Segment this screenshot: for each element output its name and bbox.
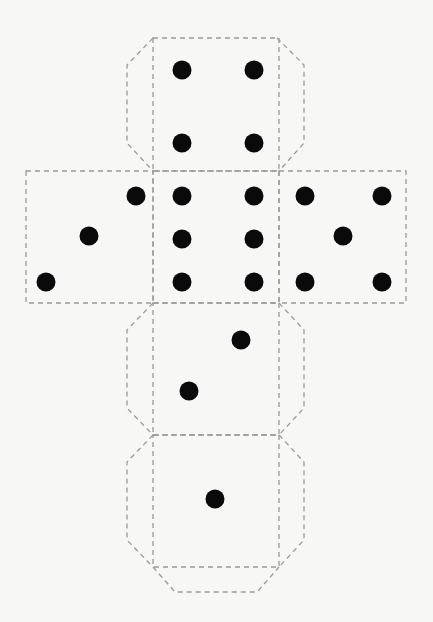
face-center bbox=[153, 171, 279, 303]
pip-dot bbox=[173, 134, 192, 153]
top-left-flap bbox=[127, 38, 153, 171]
die-faces bbox=[26, 38, 406, 567]
pip-dot bbox=[373, 273, 392, 292]
pip-dot bbox=[206, 490, 225, 509]
lower-right-flap bbox=[279, 303, 304, 435]
pip-dot bbox=[245, 134, 264, 153]
face-left bbox=[26, 171, 153, 303]
pip-dot bbox=[180, 382, 199, 401]
bottom-right-flap bbox=[279, 435, 304, 567]
face-outline bbox=[153, 38, 279, 171]
pip-dot bbox=[334, 227, 353, 246]
pip-dot bbox=[296, 187, 315, 206]
bottom-end-flap bbox=[153, 567, 279, 592]
pip-dot bbox=[37, 273, 56, 292]
pip-dot bbox=[232, 331, 251, 350]
dice-net-diagram bbox=[0, 0, 433, 622]
pip-dot bbox=[127, 187, 146, 206]
face-right bbox=[279, 171, 406, 303]
pip-dot bbox=[245, 273, 264, 292]
pip-dot bbox=[173, 230, 192, 249]
pip-dot bbox=[173, 187, 192, 206]
face-top bbox=[153, 38, 279, 171]
face-lower bbox=[153, 303, 279, 435]
pip-dot bbox=[173, 61, 192, 80]
pip-dot bbox=[245, 230, 264, 249]
pip-dot bbox=[245, 187, 264, 206]
top-right-flap bbox=[277, 38, 304, 171]
pip-dot bbox=[245, 61, 264, 80]
face-bottom bbox=[153, 435, 279, 567]
face-outline bbox=[153, 303, 279, 435]
pip-dot bbox=[80, 227, 99, 246]
pip-dot bbox=[373, 187, 392, 206]
pip-dot bbox=[296, 273, 315, 292]
bottom-left-flap bbox=[127, 435, 153, 567]
pip-dot bbox=[173, 273, 192, 292]
lower-left-flap bbox=[127, 303, 153, 435]
